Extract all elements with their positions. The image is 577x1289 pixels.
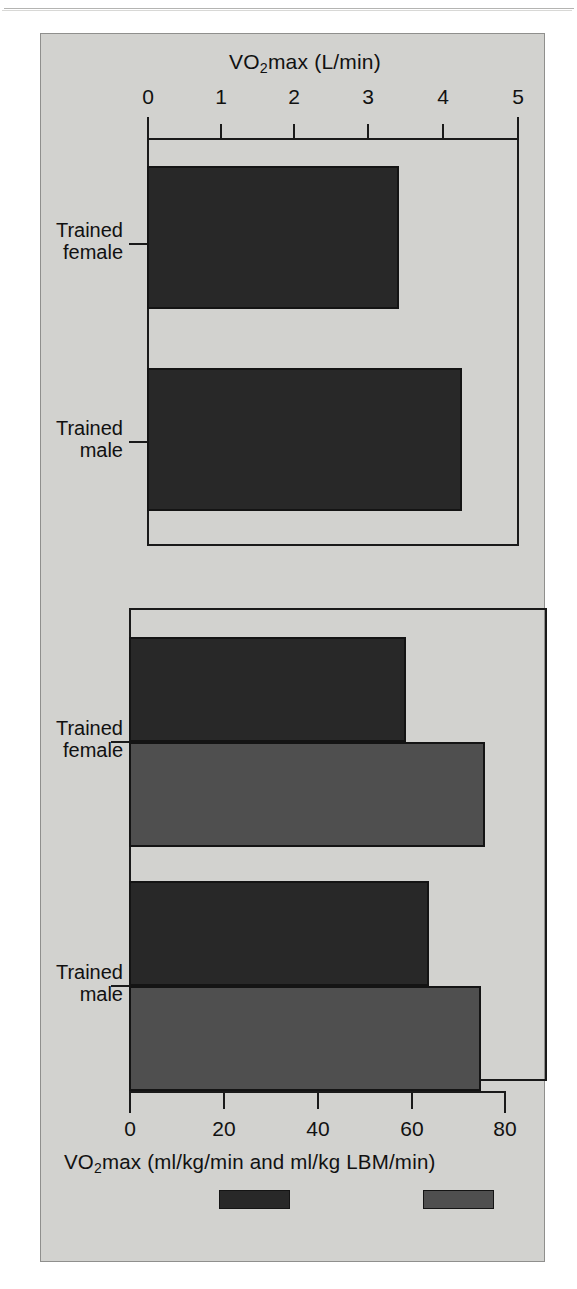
- category-label-trained-female-relative: Trained female: [41, 717, 123, 762]
- category-leader-trained-male-absolute: [129, 441, 147, 443]
- xtick-mark-0: [147, 117, 149, 139]
- bar-trained-male-ml-per-kg: [129, 881, 429, 986]
- legend-swatch-ml-per-kg: [219, 1190, 290, 1209]
- bar-trained-male-absolute: [147, 368, 462, 511]
- xtick-label-0: 0: [142, 85, 154, 109]
- xtick-mark-5: [517, 117, 519, 139]
- xtick-label-4: 4: [437, 85, 449, 109]
- x-axis-title-relative: VO2max (ml/kg/min and ml/kg LBM/min): [64, 1150, 436, 1176]
- xtick-mark-2: [293, 124, 295, 139]
- chart-relative-vo2max: Trained female Trained male 0 20 40 60 8…: [41, 604, 546, 1254]
- category-leader-trained-male-relative: [111, 985, 129, 987]
- category-leader-trained-female-absolute: [129, 243, 147, 245]
- xtick-label-3: 3: [362, 85, 374, 109]
- bar-trained-female-absolute: [147, 166, 399, 309]
- figure-panel: VO2max (L/min) 0 1 2 3 4 5 Trai: [40, 33, 545, 1262]
- category-line-1: Trained: [41, 961, 123, 983]
- xtick-mark-3: [367, 124, 369, 139]
- bar-trained-male-ml-per-kg-lbm: [129, 986, 481, 1091]
- category-line-2: female: [41, 241, 123, 263]
- bar-trained-female-ml-per-kg-lbm: [129, 742, 485, 847]
- xtick-label-0: 0: [124, 1117, 136, 1141]
- xtick-mark-4: [442, 124, 444, 139]
- page-top-rule-secondary: [2, 10, 572, 11]
- category-leader-trained-female-relative: [111, 741, 129, 743]
- xtick-label-40: 40: [306, 1117, 329, 1141]
- xtick-label-5: 5: [512, 85, 524, 109]
- xtick-mark-0: [129, 1091, 131, 1113]
- bar-trained-female-ml-per-kg: [129, 637, 406, 742]
- category-line-1: Trained: [41, 219, 123, 241]
- axis-title-text-pre: VO: [64, 1150, 94, 1173]
- legend-swatch-ml-per-kg-lbm: [423, 1190, 494, 1209]
- title-text-post: max (L/min): [268, 50, 381, 73]
- xtick-mark-20: [223, 1093, 225, 1109]
- category-label-trained-female-absolute: Trained female: [41, 219, 123, 264]
- xtick-mark-60: [411, 1093, 413, 1109]
- xtick-label-2: 2: [288, 85, 300, 109]
- chart-title-absolute: VO2max (L/min): [229, 50, 381, 76]
- xtick-mark-1: [220, 124, 222, 139]
- figure-page: VO2max (L/min) 0 1 2 3 4 5 Trai: [0, 0, 577, 1289]
- xtick-mark-80: [504, 1091, 506, 1113]
- page-top-rule: [4, 8, 574, 9]
- category-line-1: Trained: [41, 417, 123, 439]
- chart-absolute-vo2max: VO2max (L/min) 0 1 2 3 4 5 Trai: [41, 34, 546, 569]
- xtick-mark-40: [317, 1093, 319, 1109]
- category-label-trained-male-absolute: Trained male: [41, 417, 123, 462]
- xtick-label-60: 60: [400, 1117, 423, 1141]
- axis-title-text-sub: 2: [94, 1160, 102, 1176]
- axis-title-text-post: max (ml/kg/min and ml/kg LBM/min): [102, 1150, 436, 1173]
- category-line-1: Trained: [41, 717, 123, 739]
- title-text-pre: VO: [229, 50, 260, 73]
- category-line-2: male: [41, 439, 123, 461]
- xtick-label-1: 1: [215, 85, 227, 109]
- xtick-label-80: 80: [493, 1117, 516, 1141]
- title-text-sub: 2: [260, 60, 268, 76]
- category-label-trained-male-relative: Trained male: [41, 961, 123, 1006]
- xtick-label-20: 20: [212, 1117, 235, 1141]
